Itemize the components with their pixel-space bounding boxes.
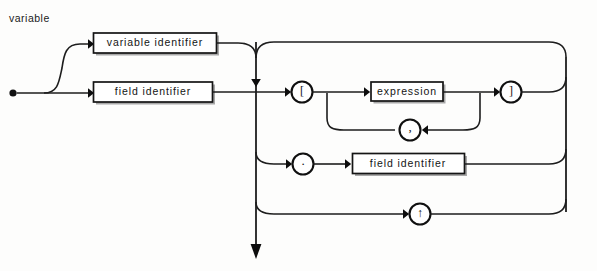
- terminal-open-bracket-label: [: [300, 84, 304, 98]
- rail-close-bracket-to-right-bus: [522, 77, 567, 92]
- arrowhead-into-comma: [422, 125, 428, 135]
- terminal-comma[interactable]: ,: [400, 119, 421, 141]
- branch-rail-to-variable-identifier: [44, 39, 94, 93]
- node-field-identifier-top[interactable]: field identifier: [94, 82, 216, 105]
- node-variable-identifier[interactable]: variable identifier: [94, 33, 220, 56]
- node-expression[interactable]: expression: [371, 82, 446, 104]
- arrowhead-bus-down-to-bracket-row: [251, 79, 261, 87]
- left-vertical-bus: [251, 42, 262, 259]
- syntax-diagram-page: variable variable identifier field ident…: [0, 0, 597, 271]
- terminal-close-bracket[interactable]: ]: [501, 82, 522, 103]
- merge-rails-to-bus: [213, 43, 292, 97]
- terminal-open-bracket[interactable]: [: [292, 82, 313, 103]
- rail-bus-to-caret: [256, 202, 409, 219]
- arrowhead-into-open-bracket: [285, 87, 291, 97]
- node-expression-label: expression: [377, 85, 437, 97]
- terminal-period[interactable]: .: [293, 153, 314, 175]
- diagram-title: variable: [9, 12, 50, 24]
- return-rail-top: [256, 42, 566, 58]
- terminal-period-label: .: [301, 153, 304, 168]
- arrowhead-into-close-bracket: [494, 87, 500, 97]
- railroad-diagram-canvas: variable variable identifier field ident…: [0, 0, 597, 271]
- rail-expression-to-close-bracket: [443, 87, 500, 97]
- rail-caret-to-right-bus: [431, 199, 567, 214]
- node-field-identifier-bottom-label: field identifier: [370, 157, 446, 169]
- arrowhead-into-expression: [364, 87, 370, 97]
- terminal-caret[interactable]: ↑: [410, 204, 431, 225]
- rail-bracket-to-expression: [313, 87, 371, 97]
- arrowhead-into-period: [286, 159, 292, 169]
- terminal-comma-label: ,: [408, 119, 411, 134]
- arrowhead-diagram-exit: [251, 244, 262, 259]
- rail-field-identifier-to-right-bus: [465, 149, 567, 164]
- node-field-identifier-top-label: field identifier: [115, 85, 191, 97]
- start-dot: [9, 89, 16, 96]
- entry-rail: [17, 88, 95, 98]
- arrowhead-into-caret: [403, 209, 409, 219]
- node-variable-identifier-label: variable identifier: [107, 36, 203, 48]
- node-field-identifier-bottom[interactable]: field identifier: [353, 154, 468, 177]
- terminal-close-bracket-label: ]: [509, 84, 513, 98]
- rail-period-to-field-identifier: [314, 159, 352, 169]
- terminal-caret-label: ↑: [417, 206, 423, 220]
- arrowhead-into-field-identifier-bottom: [345, 159, 351, 169]
- rail-bus-to-period: [256, 152, 292, 169]
